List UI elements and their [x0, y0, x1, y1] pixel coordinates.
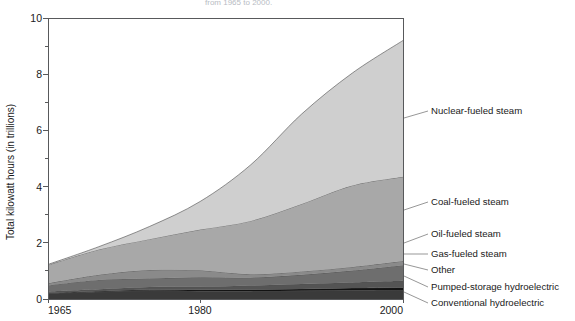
series-label-conventional: Conventional hydroelectric: [431, 297, 544, 308]
series-label-nuclear: Nuclear-fueled steam: [431, 105, 522, 116]
y-tick-label-4: 4: [36, 181, 42, 193]
y-tick-label-2: 2: [36, 237, 42, 249]
stacked-area-chart: from 1965 to 2000. 10 8 6 4 2 0 Total ki…: [0, 0, 575, 321]
leader-line-coal: [404, 202, 428, 210]
chart-figure: from 1965 to 2000. 10 8 6 4 2 0 Total ki…: [0, 0, 575, 321]
series-label-coal: Coal-fueled steam: [431, 196, 509, 207]
leader-line-oil: [404, 234, 428, 243]
y-axis-ticks: [43, 18, 48, 299]
series-label-gas: Gas-fueled steam: [431, 248, 507, 259]
y-axis-title: Total kilowatt hours (in trillions): [5, 104, 16, 240]
y-tick-label-0: 0: [36, 293, 42, 305]
leader-line-other: [404, 264, 428, 270]
y-tick-label-8: 8: [36, 68, 42, 80]
x-tick-label-2000: 2000: [380, 304, 404, 316]
y-tick-label-10: 10: [30, 12, 42, 24]
leader-line-conventional: [404, 292, 428, 303]
leader-line-pumped: [404, 276, 428, 287]
x-tick-label-1965: 1965: [48, 304, 72, 316]
series-label-pumped: Pumped-storage hydroelectric: [431, 281, 559, 292]
series-label-oil: Oil-fueled steam: [431, 228, 501, 239]
leader-line-nuclear: [404, 111, 428, 118]
chart-title: from 1965 to 2000.: [205, 0, 272, 7]
x-axis-ticks: [48, 299, 403, 303]
series-label-other: Other: [431, 264, 456, 275]
y-tick-label-6: 6: [36, 124, 42, 136]
stacked-area-bands: [48, 40, 403, 299]
x-tick-label-1980: 1980: [188, 304, 212, 316]
